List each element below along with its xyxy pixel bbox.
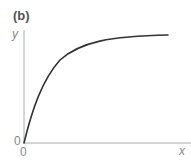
x-origin-label: 0 xyxy=(20,145,27,159)
x-axis-label: x xyxy=(179,144,185,158)
saturation-curve xyxy=(24,35,168,143)
y-axis-label: y xyxy=(12,27,18,41)
chart-plot xyxy=(0,0,191,165)
